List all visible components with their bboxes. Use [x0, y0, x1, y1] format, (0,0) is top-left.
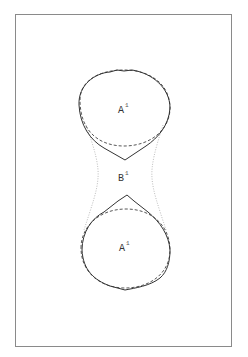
upper-region-superscript: 1	[125, 102, 129, 109]
diagram-canvas: A 1 B 1 A 1	[0, 0, 248, 357]
lower-region-superscript: 1	[126, 240, 130, 247]
upper-region-label: A	[118, 105, 124, 116]
neck-region-label: B	[118, 173, 124, 184]
neck-region-superscript: 1	[125, 170, 129, 177]
lower-region-label: A	[119, 243, 125, 254]
